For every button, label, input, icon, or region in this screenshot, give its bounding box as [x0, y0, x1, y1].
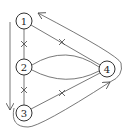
svg-text:2: 2 — [21, 62, 27, 73]
edge-2-4-lower — [32, 70, 99, 79]
node-2: 2 — [16, 59, 32, 75]
edge-1-4 — [31, 25, 100, 65]
svg-text:4: 4 — [104, 64, 110, 75]
svg-text:1: 1 — [21, 16, 27, 27]
cross-mark-3-4 — [59, 90, 65, 96]
node-4: 4 — [99, 61, 115, 77]
node-3: 3 — [16, 105, 32, 121]
graph-diagram: 1 2 3 4 — [0, 0, 130, 133]
node-1: 1 — [16, 13, 32, 29]
edge-3-4 — [31, 73, 100, 109]
edge-2-4-upper — [32, 55, 99, 67]
svg-text:3: 3 — [21, 108, 27, 119]
